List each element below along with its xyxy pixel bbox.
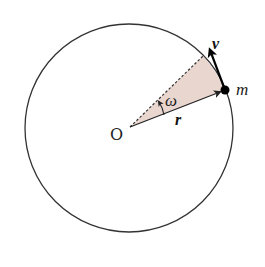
orbit-circle [25, 24, 233, 232]
circular-motion-diagram: O m v r ω [0, 0, 265, 267]
radius-label: r [175, 111, 182, 128]
origin-label: O [110, 125, 123, 144]
mass-point [221, 86, 230, 95]
velocity-label: v [212, 35, 220, 52]
angular-velocity-label: ω [165, 91, 177, 110]
mass-label: m [236, 80, 248, 99]
